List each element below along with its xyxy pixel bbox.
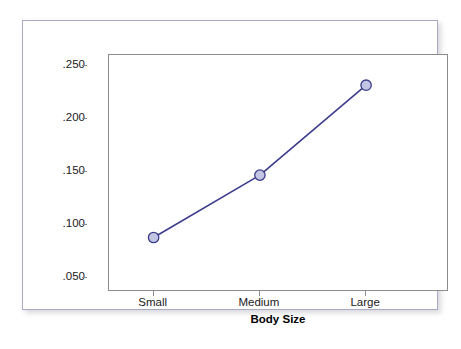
data-point-medium: [255, 170, 265, 180]
data-point-large: [361, 80, 371, 90]
y-tick-mark-200: [82, 118, 87, 119]
series-line-probability-of-diabetes: [154, 85, 367, 237]
x-tick-label-medium: Medium: [214, 296, 304, 308]
y-tick-mark-250: [82, 65, 87, 66]
figure-frame: Probability of Diabetes .250 .200 .150 .…: [22, 20, 438, 310]
y-tick-label-100: .100: [41, 217, 85, 229]
y-tick-label-200: .200: [41, 111, 85, 123]
y-tick-label-050: .050: [41, 270, 85, 282]
x-axis-title: Body Size: [108, 313, 448, 325]
plot-panel: [108, 54, 448, 291]
y-tick-mark-050: [82, 277, 87, 278]
data-series-line: [109, 55, 449, 292]
y-tick-label-150: .150: [41, 164, 85, 176]
x-tick-label-small: Small: [108, 296, 198, 308]
x-tick-label-large: Large: [320, 296, 410, 308]
y-tick-mark-150: [82, 171, 87, 172]
y-tick-label-250: .250: [41, 58, 85, 70]
data-point-small: [148, 232, 158, 242]
y-tick-mark-100: [82, 224, 87, 225]
